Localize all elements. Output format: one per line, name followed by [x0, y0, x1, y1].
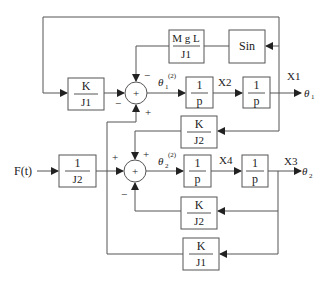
svg-text:1: 1: [254, 78, 260, 92]
svg-text:J1: J1: [181, 48, 191, 60]
svg-text:M g L: M g L: [172, 32, 200, 44]
svg-text:p: p: [254, 94, 260, 108]
svg-text:K: K: [195, 198, 204, 212]
label-theta2-output: θ 2: [302, 165, 313, 180]
svg-text:J2: J2: [194, 134, 204, 146]
label-x4: X4: [219, 154, 233, 166]
block-sin: Sin: [229, 30, 265, 63]
svg-text:J1: J1: [81, 96, 91, 108]
svg-text:p: p: [195, 172, 201, 186]
svg-text:K: K: [82, 79, 91, 93]
svg-text:−: −: [121, 188, 127, 200]
label-x2: X2: [218, 76, 231, 88]
block-k-j1-bottom: K J1: [183, 238, 219, 270]
svg-text:Sin: Sin: [239, 39, 255, 53]
svg-text:K: K: [195, 117, 204, 131]
summing-junction-2: + + + −: [112, 148, 149, 200]
label-x3: X3: [284, 155, 298, 167]
svg-text:1: 1: [75, 156, 81, 170]
svg-text:−: −: [144, 69, 150, 81]
block-k-j1-top: K J1: [68, 78, 104, 110]
svg-text:J2: J2: [194, 215, 204, 227]
svg-text:(2): (2): [168, 72, 177, 80]
kj1-bottom-to-sum1-wire: [107, 105, 183, 254]
svg-text:2: 2: [165, 162, 169, 170]
label-theta1-second-derivative: θ 1 (2): [158, 72, 177, 91]
label-theta1-output: θ 1: [304, 87, 315, 101]
svg-text:2: 2: [309, 172, 313, 180]
block-k-j2-top: K J2: [181, 116, 217, 148]
block-mgl-j1: M g L J1: [169, 30, 204, 63]
label-theta2-second-derivative: θ 2 (2): [158, 151, 177, 170]
svg-text:1: 1: [311, 93, 315, 101]
svg-text:θ: θ: [302, 165, 308, 177]
svg-text:θ: θ: [304, 87, 310, 99]
svg-text:(2): (2): [168, 151, 177, 159]
svg-text:J1: J1: [196, 256, 206, 268]
svg-text:1: 1: [197, 78, 203, 92]
svg-text:−: −: [115, 97, 121, 109]
svg-text:p: p: [197, 94, 203, 108]
svg-text:K: K: [197, 239, 206, 253]
label-x1: X1: [287, 70, 300, 82]
svg-text:1: 1: [252, 156, 258, 170]
svg-text:+: +: [112, 151, 118, 163]
svg-text:+: +: [133, 87, 139, 99]
block-integrator-2: 1 p: [243, 77, 270, 108]
svg-text:+: +: [143, 148, 149, 160]
block-k-j2-bottom: K J2: [181, 197, 217, 229]
svg-text:+: +: [145, 106, 151, 118]
svg-text:J2: J2: [73, 173, 83, 185]
block-integrator-1: 1 p: [186, 77, 213, 108]
svg-text:p: p: [252, 172, 258, 186]
kj2-bottom-to-sum2-wire: [135, 183, 181, 211]
label-input-force: F(t): [14, 164, 32, 178]
block-integrator-3: 1 p: [184, 155, 211, 187]
mgl-to-sum1-wire: [136, 46, 169, 81]
svg-text:+: +: [132, 165, 138, 177]
svg-text:θ: θ: [158, 76, 164, 88]
block-integrator-4: 1 p: [242, 155, 268, 187]
block-diagram: K J1 M g L J1 Sin 1 p 1 p K J2 1 J2: [0, 0, 326, 283]
svg-text:θ: θ: [158, 155, 164, 167]
svg-text:1: 1: [165, 83, 169, 91]
block-one-j2: 1 J2: [59, 155, 96, 187]
svg-text:1: 1: [195, 156, 201, 170]
